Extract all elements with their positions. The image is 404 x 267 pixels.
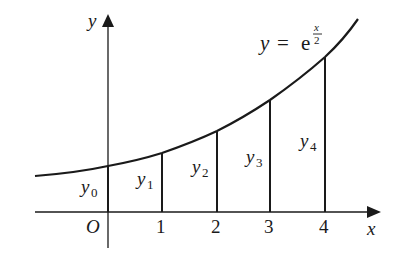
x-tick-4: 4 bbox=[319, 216, 329, 237]
svg-text:3: 3 bbox=[256, 155, 263, 170]
svg-text:2: 2 bbox=[202, 165, 209, 180]
y-axis-label: y bbox=[86, 10, 97, 31]
svg-text:4: 4 bbox=[310, 139, 317, 154]
ordinate-label-1: y 1 bbox=[135, 168, 154, 192]
svg-text:=: = bbox=[277, 31, 289, 55]
svg-text:y: y bbox=[190, 156, 201, 177]
svg-text:0: 0 bbox=[91, 185, 98, 200]
ordinate-label-0: y 0 bbox=[79, 176, 98, 200]
svg-text:y: y bbox=[298, 130, 309, 151]
exponential-diagram: y x O 1 2 3 4 y 0 y 1 y 2 y 3 y 4 y = e … bbox=[0, 0, 404, 267]
svg-text:2: 2 bbox=[314, 34, 320, 46]
x-axis-label: x bbox=[366, 218, 376, 239]
svg-text:y: y bbox=[135, 168, 146, 189]
x-tick-2: 2 bbox=[211, 216, 221, 237]
function-label: y = e x 2 bbox=[258, 21, 322, 55]
svg-text:y: y bbox=[244, 146, 255, 167]
ordinate-label-3: y 3 bbox=[244, 146, 263, 170]
svg-text:e: e bbox=[301, 31, 310, 55]
y-axis-arrow-icon bbox=[102, 14, 114, 27]
x-tick-3: 3 bbox=[264, 216, 274, 237]
ordinate-label-4: y 4 bbox=[298, 130, 317, 154]
svg-text:x: x bbox=[313, 21, 319, 33]
svg-text:y: y bbox=[258, 31, 270, 55]
svg-text:y: y bbox=[79, 176, 90, 197]
ordinate-label-2: y 2 bbox=[190, 156, 209, 180]
svg-text:1: 1 bbox=[147, 177, 154, 192]
x-axis-arrow-icon bbox=[367, 206, 381, 218]
origin-label: O bbox=[86, 216, 100, 237]
x-tick-1: 1 bbox=[156, 216, 166, 237]
